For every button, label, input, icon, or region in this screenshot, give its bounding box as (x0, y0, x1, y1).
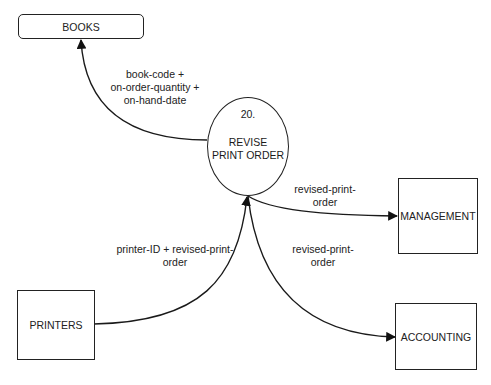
process-revise-print-order: 20. REVISE PRINT ORDER (207, 97, 289, 196)
flow-label-to-books: book-code + on-order-quantity + on-hand-… (95, 68, 215, 107)
entity-label: ACCOUNTING (401, 331, 472, 343)
flow-label-line: revised-print- (280, 183, 370, 196)
flow-label-line: order (280, 196, 370, 209)
process-name-line1: REVISE (208, 136, 288, 149)
entity-printers: PRINTERS (17, 290, 95, 360)
data-store-label: BOOKS (62, 21, 99, 33)
entity-management: MANAGEMENT (398, 178, 478, 254)
flow-label-line: on-order-quantity + (95, 81, 215, 94)
entity-label: MANAGEMENT (400, 210, 475, 222)
entity-accounting: ACCOUNTING (395, 303, 477, 370)
flow-label-line: order (110, 256, 240, 269)
flow-label-line: revised-print- (278, 243, 368, 256)
flow-label-line: printer-ID + revised-print- (110, 243, 240, 256)
flow-label-line: on-hand-date (95, 94, 215, 107)
flow-label-from-printers: printer-ID + revised-print- order (110, 243, 240, 269)
data-store-books: BOOKS (18, 14, 144, 39)
entity-label: PRINTERS (29, 319, 82, 331)
flow-label-line: order (278, 256, 368, 269)
flow-label-to-management: revised-print- order (280, 183, 370, 209)
process-number: 20. (208, 108, 288, 120)
flow-label-to-accounting: revised-print- order (278, 243, 368, 269)
flow-label-line: book-code + (95, 68, 215, 81)
process-name-line2: PRINT ORDER (208, 149, 288, 162)
